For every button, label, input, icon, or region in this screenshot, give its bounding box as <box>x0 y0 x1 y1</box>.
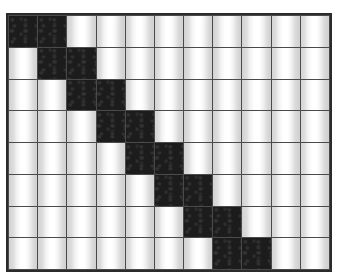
matrix-grid <box>6 13 332 272</box>
matrix-body <box>9 16 330 270</box>
matrix-cell-empty <box>242 79 271 111</box>
figure-canvas <box>0 0 338 279</box>
matrix-cell-empty <box>213 79 242 111</box>
matrix-row <box>9 79 330 111</box>
matrix-cell-empty <box>242 206 271 238</box>
matrix-cell-empty <box>38 238 67 270</box>
matrix-row <box>9 16 330 48</box>
matrix-cell-filled <box>154 174 183 206</box>
matrix-cell-filled <box>213 238 242 270</box>
matrix-cell-empty <box>38 79 67 111</box>
matrix-cell-filled <box>184 206 213 238</box>
matrix-cell-empty <box>38 143 67 175</box>
matrix-cell-empty <box>67 111 96 143</box>
matrix-cell-empty <box>271 238 300 270</box>
matrix-cell-filled <box>125 111 154 143</box>
paper-margin-top <box>0 0 338 13</box>
matrix-cell-filled <box>9 16 38 48</box>
matrix-cell-empty <box>67 174 96 206</box>
matrix-cell-filled <box>184 174 213 206</box>
matrix-cell-empty <box>242 174 271 206</box>
matrix-cell-empty <box>96 143 125 175</box>
matrix-cell-empty <box>300 206 329 238</box>
matrix-cell-empty <box>154 16 183 48</box>
matrix-cell-empty <box>271 47 300 79</box>
matrix-cell-empty <box>184 16 213 48</box>
matrix-cell-filled <box>154 143 183 175</box>
matrix-cell-empty <box>184 238 213 270</box>
matrix-cell-empty <box>154 238 183 270</box>
matrix-cell-empty <box>96 16 125 48</box>
matrix-cell-empty <box>242 111 271 143</box>
matrix-cell-filled <box>38 16 67 48</box>
matrix-cell-empty <box>184 111 213 143</box>
matrix-cell-empty <box>96 206 125 238</box>
matrix-cell-empty <box>271 174 300 206</box>
matrix-cell-filled <box>38 47 67 79</box>
matrix-cell-empty <box>9 111 38 143</box>
matrix-cell-empty <box>9 79 38 111</box>
matrix-row <box>9 238 330 270</box>
matrix-cell-empty <box>300 238 329 270</box>
matrix-cell-empty <box>9 47 38 79</box>
matrix-cell-empty <box>38 206 67 238</box>
matrix-cell-empty <box>271 111 300 143</box>
matrix-cell-empty <box>300 16 329 48</box>
matrix-cell-empty <box>242 47 271 79</box>
matrix-cell-empty <box>125 79 154 111</box>
matrix-cell-empty <box>9 238 38 270</box>
matrix-row <box>9 111 330 143</box>
matrix-cell-empty <box>242 143 271 175</box>
matrix-cell-empty <box>242 16 271 48</box>
matrix-cell-empty <box>184 47 213 79</box>
matrix-cell-empty <box>300 174 329 206</box>
matrix-cell-filled <box>67 79 96 111</box>
matrix-cell-filled <box>125 143 154 175</box>
matrix-cell-filled <box>67 47 96 79</box>
matrix-row <box>9 47 330 79</box>
matrix-cell-empty <box>38 174 67 206</box>
matrix-cell-empty <box>271 143 300 175</box>
paper-margin-left <box>0 0 6 279</box>
matrix-row <box>9 206 330 238</box>
matrix-cell-filled <box>96 111 125 143</box>
matrix-row <box>9 143 330 175</box>
matrix-cell-empty <box>125 16 154 48</box>
matrix-cell-empty <box>271 79 300 111</box>
matrix-cell-empty <box>125 174 154 206</box>
matrix-cell-empty <box>67 143 96 175</box>
matrix-cell-empty <box>184 79 213 111</box>
matrix-cell-empty <box>300 47 329 79</box>
matrix-cell-empty <box>271 16 300 48</box>
matrix-cell-empty <box>300 79 329 111</box>
matrix-cell-empty <box>154 79 183 111</box>
matrix-cell-empty <box>9 174 38 206</box>
matrix-cell-empty <box>125 238 154 270</box>
matrix-cell-empty <box>213 143 242 175</box>
matrix-cell-empty <box>300 143 329 175</box>
matrix-cell-empty <box>213 47 242 79</box>
matrix-cell-empty <box>300 111 329 143</box>
matrix-cell-empty <box>9 143 38 175</box>
matrix-cell-empty <box>96 238 125 270</box>
matrix-cell-empty <box>67 238 96 270</box>
matrix-cell-empty <box>38 111 67 143</box>
matrix-table <box>8 15 330 270</box>
matrix-cell-empty <box>67 16 96 48</box>
matrix-cell-empty <box>213 174 242 206</box>
matrix-cell-empty <box>154 206 183 238</box>
matrix-cell-empty <box>154 111 183 143</box>
matrix-cell-empty <box>9 206 38 238</box>
matrix-cell-filled <box>242 238 271 270</box>
matrix-cell-empty <box>96 174 125 206</box>
matrix-cell-empty <box>213 111 242 143</box>
matrix-cell-empty <box>125 206 154 238</box>
matrix-cell-empty <box>67 206 96 238</box>
matrix-cell-filled <box>96 79 125 111</box>
matrix-cell-empty <box>271 206 300 238</box>
matrix-row <box>9 174 330 206</box>
matrix-cell-empty <box>184 143 213 175</box>
matrix-cell-empty <box>125 47 154 79</box>
matrix-cell-empty <box>96 47 125 79</box>
matrix-cell-filled <box>213 206 242 238</box>
